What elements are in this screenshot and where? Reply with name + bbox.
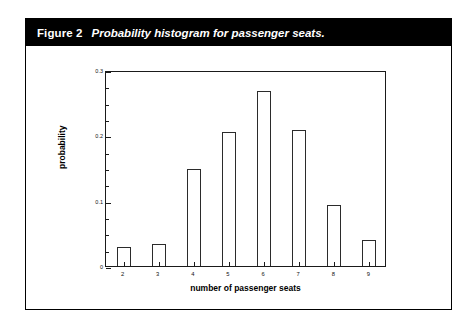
x-tick-label: 5 — [226, 271, 229, 277]
x-tick — [229, 262, 230, 266]
y-tick-minor — [106, 219, 109, 220]
x-tick — [124, 262, 125, 266]
x-tick — [159, 262, 160, 266]
figure-container: Figure 2 Probability histogram for passe… — [25, 18, 452, 310]
y-tick-minor — [106, 105, 109, 106]
x-tick-label: 8 — [332, 271, 335, 277]
x-tick — [369, 262, 370, 266]
y-tick-minor — [106, 186, 109, 187]
histogram-bar — [187, 169, 201, 266]
x-axis-title: number of passenger seats — [105, 283, 386, 293]
x-tick-label: 7 — [297, 271, 300, 277]
figure-caption-text: Probability histogram for passenger seat… — [92, 27, 325, 39]
y-tick-label: 0 — [100, 264, 103, 270]
y-tick-label: 0.1 — [95, 199, 103, 205]
chart-canvas: probability 00.10.20.3 23456789 number o… — [26, 46, 451, 309]
x-tick-label: 3 — [156, 271, 159, 277]
y-tick-minor — [106, 252, 109, 253]
y-tick-minor — [106, 154, 109, 155]
x-tick-label: 6 — [261, 271, 264, 277]
y-tick-major — [106, 203, 111, 204]
y-tick-major — [106, 137, 111, 138]
y-axis-tick-labels: 00.10.20.3 — [81, 71, 103, 267]
histogram-bar — [292, 130, 306, 266]
x-tick-label: 2 — [121, 271, 124, 277]
x-tick-label: 4 — [191, 271, 194, 277]
figure-number-label: Figure 2 — [37, 27, 83, 39]
y-axis-title: probability — [57, 126, 67, 169]
figure-caption-bar: Figure 2 Probability histogram for passe… — [26, 19, 451, 46]
y-tick-minor — [106, 235, 109, 236]
y-tick-major — [106, 268, 111, 269]
x-axis-tick-labels: 23456789 — [105, 271, 386, 283]
y-tick-label: 0.3 — [95, 68, 103, 74]
histogram-bar — [327, 205, 341, 266]
x-tick — [334, 262, 335, 266]
x-tick-label: 9 — [367, 271, 370, 277]
y-tick-major — [106, 72, 111, 73]
histogram-bar — [222, 132, 236, 266]
plot-frame — [105, 71, 386, 267]
y-tick-label: 0.2 — [95, 133, 103, 139]
x-tick — [194, 262, 195, 266]
histogram-bar — [257, 91, 271, 266]
y-tick-minor — [106, 88, 109, 89]
x-tick — [264, 262, 265, 266]
y-tick-minor — [106, 121, 109, 122]
y-tick-minor — [106, 170, 109, 171]
x-tick — [299, 262, 300, 266]
